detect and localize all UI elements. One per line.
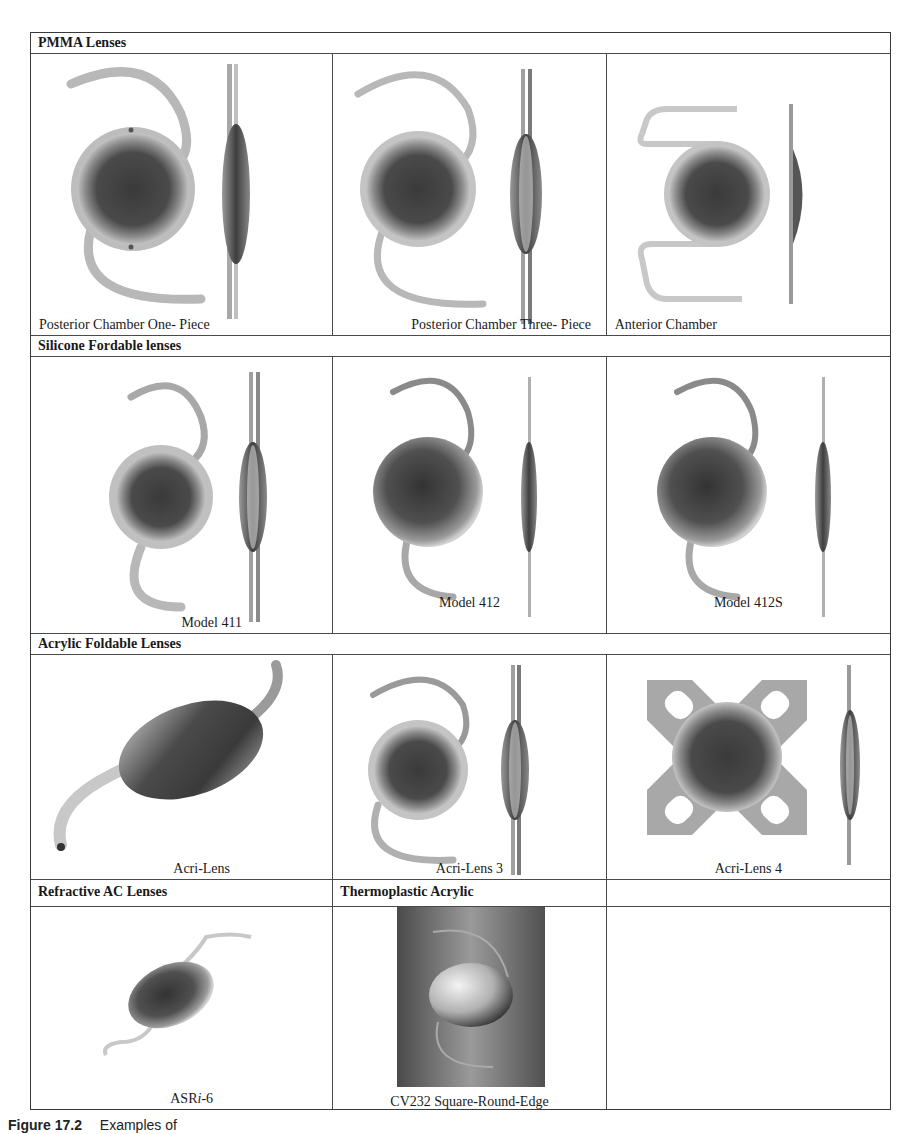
lens-cell-model-412s: Model 412S xyxy=(606,357,890,633)
silicone-model-411-lens-image xyxy=(31,357,333,634)
lens-caption: Anterior Chamber xyxy=(615,317,717,333)
lens-cell-acri-lens-3: Acri-Lens 3 xyxy=(332,655,605,879)
section-title-thermoplastic: Thermoplastic Acrylic xyxy=(332,880,605,906)
image-row-refractive-thermoplastic: ASRi-6 CV232 Square-Round-Edge xyxy=(31,907,890,1109)
acri-lens-4-image xyxy=(607,655,892,880)
section-header-pmma: PMMA Lenses xyxy=(31,33,890,54)
cv232-lens-image xyxy=(333,907,607,1109)
image-row-silicone: Model 411 Model 412 Model 412S xyxy=(31,357,890,634)
lens-cell-anterior-chamber: Anterior Chamber xyxy=(606,54,890,335)
lens-caption: Posterior Chamber Three- Piece xyxy=(411,317,591,333)
lens-cell-acri-lens-4: Acri-Lens 4 xyxy=(606,655,890,879)
figure-caption-text: Examples of xyxy=(100,1117,177,1133)
pmma-posterior-one-piece-lens-image xyxy=(31,54,333,336)
lens-caption: Acri-Lens 4 xyxy=(607,861,890,877)
lens-cell-model-411: Model 411 xyxy=(31,357,332,633)
lens-caption: Acri-Lens xyxy=(71,861,332,877)
silicone-model-412-lens-image xyxy=(333,357,607,634)
lens-figure-table: PMMA Lenses Posterior Chamber One- Piece xyxy=(30,32,891,1110)
lens-cell-model-412: Model 412 xyxy=(332,357,605,633)
image-row-pmma: Posterior Chamber One- Piece Posterior C… xyxy=(31,54,890,336)
figure-caption: Figure 17.2 Examples of xyxy=(8,1117,177,1133)
lens-caption: Model 411 xyxy=(91,615,332,631)
lens-cell-acri-lens: Acri-Lens xyxy=(31,655,332,879)
lens-cell-posterior-three-piece: Posterior Chamber Three- Piece xyxy=(332,54,605,335)
lens-caption: ASRi-6 xyxy=(51,1091,332,1107)
lens-caption: Acri-Lens 3 xyxy=(333,861,605,877)
section-header-acrylic: Acrylic Foldable Lenses xyxy=(31,634,890,655)
silicone-model-412s-lens-image xyxy=(607,357,892,634)
section-title-refractive-ac: Refractive AC Lenses xyxy=(31,880,332,906)
lens-caption: Model 412S xyxy=(607,595,890,611)
empty-cell xyxy=(606,907,890,1109)
lens-caption: Posterior Chamber One- Piece xyxy=(39,317,210,333)
asri-6-lens-image xyxy=(31,907,333,1109)
acri-lens-3-image xyxy=(333,655,607,880)
section-header-refractive-thermoplastic: Refractive AC Lenses Thermoplastic Acryl… xyxy=(31,880,890,907)
acri-lens-image xyxy=(31,655,333,880)
section-header-silicone: Silicone Fordable lenses xyxy=(31,336,890,357)
section-title: Silicone Fordable lenses xyxy=(31,336,890,356)
lens-caption: Model 412 xyxy=(333,595,605,611)
section-title: Acrylic Foldable Lenses xyxy=(31,634,890,654)
lens-cell-cv232: CV232 Square-Round-Edge xyxy=(332,907,605,1109)
pmma-anterior-chamber-lens-image xyxy=(607,54,892,336)
lens-caption: CV232 Square-Round-Edge xyxy=(333,1094,605,1110)
figure-caption-label: Figure 17.2 xyxy=(8,1117,82,1133)
image-row-acrylic: Acri-Lens Acri-Lens 3 xyxy=(31,655,890,880)
lens-cell-asri-6: ASRi-6 xyxy=(31,907,332,1109)
lens-cell-posterior-one-piece: Posterior Chamber One- Piece xyxy=(31,54,332,335)
pmma-posterior-three-piece-lens-image xyxy=(333,54,607,336)
section-title: PMMA Lenses xyxy=(31,33,890,53)
section-title-empty xyxy=(606,880,890,906)
